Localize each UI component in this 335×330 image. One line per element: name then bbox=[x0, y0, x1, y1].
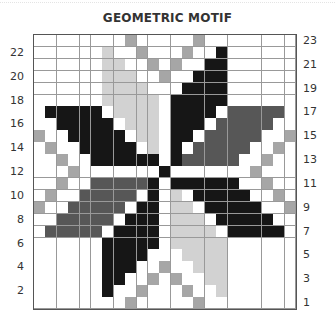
row-label-left: 6 bbox=[2, 237, 24, 250]
grid-cell-black bbox=[205, 202, 217, 214]
grid-cell-medium-gray bbox=[45, 190, 57, 202]
grid-cell-black bbox=[125, 154, 137, 166]
grid-cell-white bbox=[34, 95, 46, 107]
grid-cell-white bbox=[285, 249, 297, 261]
grid-cell-light-gray bbox=[114, 59, 126, 71]
grid-cell-white bbox=[91, 71, 103, 83]
grid-cell-white bbox=[34, 154, 46, 166]
grid-cell-white bbox=[159, 202, 171, 214]
grid-cell-dark-gray bbox=[182, 154, 194, 166]
grid-cell-black bbox=[250, 202, 262, 214]
grid-cell-medium-gray bbox=[57, 154, 69, 166]
grid-cell-black bbox=[171, 142, 183, 154]
grid-cell-white bbox=[80, 178, 92, 190]
grid-cell-medium-gray bbox=[262, 154, 274, 166]
grid-cell-white bbox=[250, 95, 262, 107]
grid-cell-white bbox=[239, 273, 251, 285]
grid-cell-white bbox=[68, 249, 80, 261]
grid-cell-black bbox=[239, 226, 251, 238]
grid-cell-black bbox=[193, 106, 205, 118]
grid-cell-white bbox=[34, 249, 46, 261]
grid-cell-white bbox=[273, 249, 285, 261]
grid-cell-white bbox=[68, 35, 80, 47]
grid-cell-black bbox=[205, 71, 217, 83]
grid-cell-white bbox=[250, 71, 262, 83]
grid-cell-light-gray bbox=[114, 71, 126, 83]
grid-cell-white bbox=[285, 226, 297, 238]
grid-cell-white bbox=[68, 297, 80, 309]
grid-cell-white bbox=[137, 190, 149, 202]
grid-cell-white bbox=[239, 47, 251, 59]
grid-cell-medium-gray bbox=[137, 285, 149, 297]
grid-cell-dark-gray bbox=[91, 226, 103, 238]
grid-cell-white bbox=[45, 202, 57, 214]
grid-cell-black bbox=[171, 130, 183, 142]
grid-cell-white bbox=[285, 238, 297, 250]
grid-cell-black bbox=[102, 273, 114, 285]
grid-cell-dark-gray bbox=[228, 130, 240, 142]
grid-cell-medium-gray bbox=[250, 166, 262, 178]
grid-cell-black bbox=[68, 118, 80, 130]
grid-cell-black bbox=[182, 95, 194, 107]
grid-cell-black bbox=[228, 214, 240, 226]
grid-cell-light-gray bbox=[171, 226, 183, 238]
grid-cell-light-gray bbox=[148, 95, 160, 107]
grid-cell-light-gray bbox=[137, 130, 149, 142]
grid-cell-white bbox=[159, 35, 171, 47]
grid-cell-light-gray bbox=[137, 83, 149, 95]
grid-cell-medium-gray bbox=[68, 166, 80, 178]
grid-cell-light-gray bbox=[148, 106, 160, 118]
grid-cell-white bbox=[159, 297, 171, 309]
grid-cell-white bbox=[250, 297, 262, 309]
grid-cell-black bbox=[216, 47, 228, 59]
grid-cell-black bbox=[137, 238, 149, 250]
grid-cell-black bbox=[80, 118, 92, 130]
grid-cell-light-gray bbox=[102, 83, 114, 95]
grid-cell-medium-gray bbox=[125, 297, 137, 309]
grid-cell-dark-gray bbox=[57, 226, 69, 238]
grid-cell-white bbox=[114, 47, 126, 59]
grid-cell-white bbox=[91, 83, 103, 95]
row-label-right: 11 bbox=[303, 177, 325, 190]
grid-cell-black bbox=[114, 238, 126, 250]
grid-cell-light-gray bbox=[216, 261, 228, 273]
grid-cell-medium-gray bbox=[125, 35, 137, 47]
grid-cell-black bbox=[137, 249, 149, 261]
grid-cell-black bbox=[228, 178, 240, 190]
grid-cell-white bbox=[102, 166, 114, 178]
grid-cell-white bbox=[250, 59, 262, 71]
grid-cell-white bbox=[228, 261, 240, 273]
grid-cell-white bbox=[159, 178, 171, 190]
grid-cell-black bbox=[262, 214, 274, 226]
grid-cell-white bbox=[57, 297, 69, 309]
grid-cell-white bbox=[45, 261, 57, 273]
grid-cell-white bbox=[57, 261, 69, 273]
row-label-right: 17 bbox=[303, 105, 325, 118]
grid-cell-dark-gray bbox=[114, 178, 126, 190]
grid-cell-white bbox=[159, 95, 171, 107]
grid-cell-white bbox=[68, 47, 80, 59]
grid-cell-medium-gray bbox=[262, 178, 274, 190]
grid-cell-black bbox=[80, 142, 92, 154]
grid-cell-medium-gray bbox=[148, 273, 160, 285]
grid-cell-white bbox=[273, 118, 285, 130]
grid-cell-white bbox=[57, 249, 69, 261]
grid-cell-black bbox=[102, 285, 114, 297]
grid-cell-white bbox=[182, 142, 194, 154]
grid-cell-black bbox=[102, 142, 114, 154]
grid-cell-white bbox=[57, 273, 69, 285]
grid-cell-white bbox=[148, 35, 160, 47]
grid-cell-white bbox=[91, 35, 103, 47]
chart-title: GEOMETRIC MOTIF bbox=[0, 11, 335, 25]
grid-cell-white bbox=[45, 285, 57, 297]
grid-cell-white bbox=[239, 166, 251, 178]
grid-cell-white bbox=[216, 106, 228, 118]
grid-cell-white bbox=[193, 273, 205, 285]
grid-cell-light-gray bbox=[114, 83, 126, 95]
grid-cell-white bbox=[114, 166, 126, 178]
grid-cell-black bbox=[91, 142, 103, 154]
grid-cell-white bbox=[45, 249, 57, 261]
grid-cell-white bbox=[273, 35, 285, 47]
grid-cell-black bbox=[273, 226, 285, 238]
grid-cell-white bbox=[216, 166, 228, 178]
